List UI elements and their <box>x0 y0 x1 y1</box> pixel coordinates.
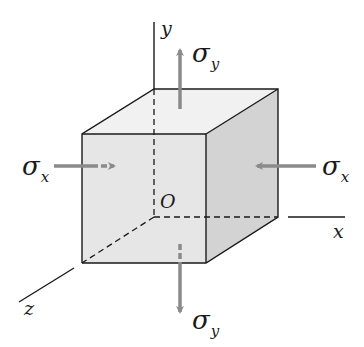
sigma-symbol: σ <box>192 38 210 68</box>
sigma-subscript: x <box>341 168 349 186</box>
sigma-x-right-label: σx <box>322 153 349 185</box>
sigma-subscript: x <box>41 168 49 186</box>
sigma-subscript: y <box>211 322 219 340</box>
sigma-y-bottom-label: σy <box>192 307 219 339</box>
z-axis-label: z <box>24 299 34 318</box>
x-axis-label: x <box>333 222 344 241</box>
origin-label: O <box>160 192 176 211</box>
y-axis-label: y <box>161 19 172 38</box>
sigma-x-left-label: σx <box>22 153 49 185</box>
sigma-symbol: σ <box>22 151 40 181</box>
stress-element-diagram <box>0 0 364 347</box>
sigma-subscript: y <box>211 55 219 73</box>
cube-front-face <box>82 134 206 263</box>
sigma-symbol: σ <box>192 305 210 335</box>
sigma-y-top-label: σy <box>192 40 219 72</box>
sigma-symbol: σ <box>322 151 340 181</box>
